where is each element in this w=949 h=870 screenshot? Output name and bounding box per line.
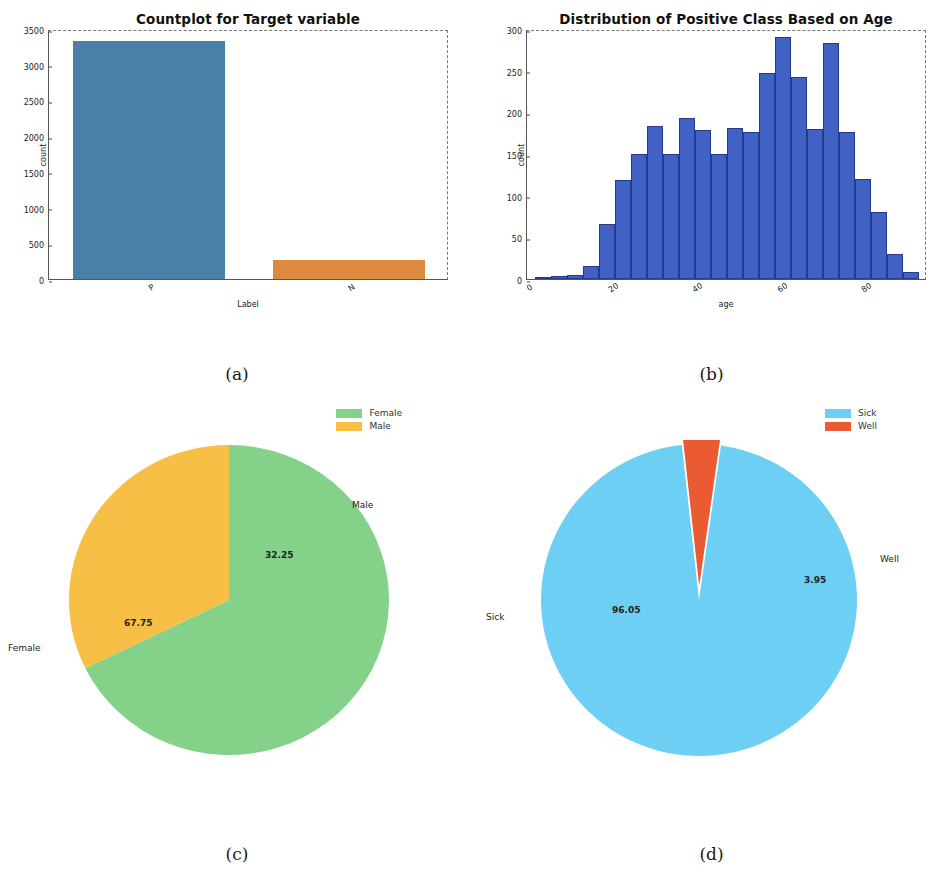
age-histogram-xtick: 0	[525, 283, 534, 293]
age-histogram-chart: Distribution of Positive Class Based on …	[526, 30, 926, 280]
age-histogram-bar	[743, 132, 759, 279]
sick-pie-chart	[536, 440, 871, 760]
countplot-bar-n	[273, 260, 425, 279]
age-histogram-bar	[759, 73, 775, 279]
age-histogram-xtick: 40	[691, 281, 705, 294]
legend-label-female: Female	[369, 408, 402, 418]
age-histogram-bar	[855, 179, 871, 279]
countplot-axes: 0500100015002000250030003500PN	[48, 30, 448, 280]
panel-b-histogram: Distribution of Positive Class Based on …	[474, 0, 949, 390]
age-histogram-bar	[807, 129, 823, 279]
sex-pie-legend: Female Male	[336, 408, 402, 434]
countplot-bar-p	[73, 41, 225, 279]
age-histogram-bar	[711, 154, 727, 279]
legend-label-sick: Sick	[858, 408, 876, 418]
legend-swatch-male	[336, 422, 362, 431]
countplot-ytick: 1000	[24, 205, 49, 214]
age-histogram-ytick: 250	[507, 68, 527, 77]
age-histogram-bar	[727, 128, 743, 279]
figure-grid: Countplot for Target variable 0500100015…	[0, 0, 949, 870]
caption-a: (a)	[0, 364, 474, 384]
caption-c: (c)	[0, 844, 474, 864]
pie-outer-label-sick: Sick	[486, 612, 504, 622]
age-histogram-ytick: 200	[507, 110, 527, 119]
age-histogram-bar	[599, 224, 615, 279]
countplot-xlabel: Label	[48, 300, 448, 309]
legend-label-male: Male	[369, 421, 390, 431]
sex-pie-chart	[62, 440, 397, 760]
countplot-ytick: 3000	[24, 62, 49, 71]
countplot-ylabel: count	[39, 144, 48, 167]
legend-item-sick[interactable]: Sick	[825, 408, 877, 418]
age-histogram-bar	[695, 130, 711, 279]
panel-a-countplot: Countplot for Target variable 0500100015…	[0, 0, 474, 390]
age-histogram-title: Distribution of Positive Class Based on …	[526, 11, 926, 27]
pie-value-female: 67.75	[124, 618, 152, 628]
countplot-ytick: 2500	[24, 98, 49, 107]
countplot-xtick: P	[147, 283, 156, 293]
pie-value-well: 3.95	[804, 575, 826, 585]
age-histogram-bar	[775, 37, 791, 279]
legend-item-male[interactable]: Male	[336, 421, 402, 431]
pie-value-male: 32.25	[265, 550, 293, 560]
age-histogram-bar	[631, 154, 647, 279]
countplot-ytick: 500	[29, 241, 49, 250]
pie-value-sick: 96.05	[612, 605, 640, 615]
pie-outer-label-well: Well	[880, 554, 899, 564]
age-histogram-bar	[647, 126, 663, 279]
age-histogram-bar	[903, 272, 919, 279]
countplot-xtick: N	[347, 282, 357, 293]
panel-d-sick-pie: Sick Well Sick Well 96.05 3.95 (d)	[474, 390, 949, 870]
age-histogram-xtick: 20	[607, 281, 621, 294]
countplot-ytick: 1500	[24, 169, 49, 178]
sick-pie-svg	[536, 440, 871, 760]
legend-item-female[interactable]: Female	[336, 408, 402, 418]
countplot-ytick: 2000	[24, 134, 49, 143]
age-histogram-bar	[871, 212, 887, 279]
age-histogram-xlabel: age	[526, 300, 926, 309]
countplot-ytick: 3500	[24, 27, 49, 36]
age-histogram-axes: 050100150200250300020406080	[526, 30, 926, 280]
legend-item-well[interactable]: Well	[825, 421, 877, 431]
panel-c-sex-pie: Female Male Female Male 67.75 32.25 (c)	[0, 390, 474, 870]
age-histogram-bar	[663, 154, 679, 279]
legend-swatch-well	[825, 422, 851, 431]
countplot-chart: Countplot for Target variable 0500100015…	[48, 30, 448, 280]
sex-pie-svg	[62, 440, 397, 760]
age-histogram-bar	[583, 266, 599, 279]
age-histogram-ylabel: count	[517, 144, 526, 167]
sick-pie-legend: Sick Well	[825, 408, 877, 434]
caption-d: (d)	[474, 844, 949, 864]
age-histogram-bar	[791, 77, 807, 279]
age-histogram-xtick: 60	[775, 281, 789, 294]
countplot-title: Countplot for Target variable	[48, 11, 448, 27]
legend-swatch-sick	[825, 409, 851, 418]
age-histogram-bar	[887, 254, 903, 279]
age-histogram-ytick: 50	[512, 235, 527, 244]
countplot-ytick: 0	[39, 277, 49, 286]
age-histogram-bar	[567, 275, 583, 279]
age-histogram-bar	[839, 132, 855, 279]
age-histogram-ytick: 100	[507, 193, 527, 202]
age-histogram-bar	[679, 118, 695, 279]
pie-outer-label-female: Female	[8, 643, 41, 653]
age-histogram-xtick: 80	[860, 281, 874, 294]
age-histogram-bar	[823, 43, 839, 279]
age-histogram-ytick: 300	[507, 27, 527, 36]
age-histogram-bar	[535, 277, 551, 279]
age-histogram-bar	[615, 180, 631, 279]
legend-label-well: Well	[858, 421, 877, 431]
pie-outer-label-male: Male	[352, 500, 373, 510]
age-histogram-bar	[551, 276, 567, 279]
legend-swatch-female	[336, 409, 362, 418]
caption-b: (b)	[474, 364, 949, 384]
